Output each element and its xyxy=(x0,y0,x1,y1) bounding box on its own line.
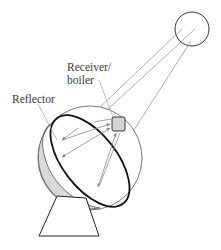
reflector-label: Reflector xyxy=(12,93,55,105)
sun-circle xyxy=(175,12,209,46)
receiver-label-line1: Receiver/ xyxy=(67,61,112,73)
receiver-label-line2: boiler xyxy=(67,74,94,86)
solar-dish-diagram: Receiver/ boiler Reflector xyxy=(0,0,221,250)
receiver-box xyxy=(112,117,125,131)
